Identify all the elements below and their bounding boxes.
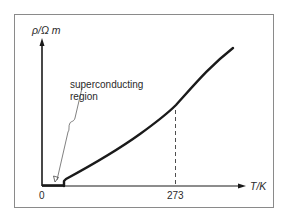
origin-label: 0 — [39, 190, 45, 201]
resistivity-curve — [64, 48, 233, 186]
y-axis-label: ρ/Ω m — [31, 24, 61, 36]
annotation-label-line2: region — [70, 91, 98, 102]
annotation-arrow-icon — [54, 176, 59, 182]
x-axis-label: T/K — [250, 180, 267, 192]
chart-figure: ρ/Ω m T/K 0 273 superconducting region — [0, 0, 287, 220]
figure-frame — [15, 15, 274, 208]
tick-label-273: 273 — [167, 190, 184, 201]
y-axis-arrow-icon — [40, 38, 45, 46]
annotation-label-line1: superconducting — [70, 79, 143, 90]
x-axis-arrow-icon — [238, 184, 246, 189]
